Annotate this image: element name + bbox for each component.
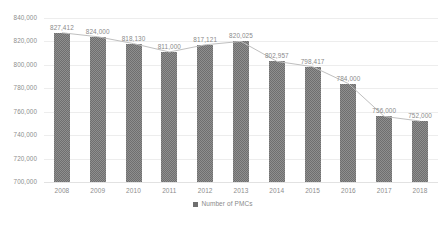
y-axis-tick-label: 800,000: [14, 62, 37, 68]
bar[interactable]: [126, 44, 142, 182]
bar-slot: [44, 18, 80, 182]
bar[interactable]: [412, 121, 428, 182]
chart-container: 840,000820,000800,000780,000760,000740,0…: [0, 0, 446, 228]
bar[interactable]: [340, 84, 356, 182]
x-axis: 2008200920102011201220132014201520162017…: [44, 184, 438, 198]
bar-slot: [295, 18, 331, 182]
x-axis-tick-label: 2012: [187, 184, 223, 198]
bar-slot: [151, 18, 187, 182]
bar[interactable]: [90, 37, 106, 182]
bar-slot: [116, 18, 152, 182]
bar-slot: [402, 18, 438, 182]
bar[interactable]: [305, 67, 321, 182]
y-axis-tick-label: 700,000: [14, 179, 37, 185]
y-axis-tick-label: 740,000: [14, 132, 37, 138]
bar-slot: [366, 18, 402, 182]
y-axis-tick-label: 780,000: [14, 85, 37, 91]
bar[interactable]: [161, 52, 177, 182]
x-axis-tick-label: 2008: [44, 184, 80, 198]
y-axis-tick-label: 840,000: [14, 15, 37, 21]
bar-slot: [259, 18, 295, 182]
x-axis-tick-label: 2010: [116, 184, 152, 198]
bar[interactable]: [376, 116, 392, 182]
x-axis-tick-label: 2017: [366, 184, 402, 198]
bars-layer: [44, 18, 438, 182]
x-axis-tick-label: 2011: [151, 184, 187, 198]
y-axis-tick-label: 720,000: [14, 155, 37, 161]
x-axis-tick-label: 2015: [295, 184, 331, 198]
chart-legend: Number of PMCs: [0, 201, 446, 208]
bar[interactable]: [54, 33, 70, 182]
bar-slot: [223, 18, 259, 182]
bar[interactable]: [197, 45, 213, 182]
y-axis-tick-label: 820,000: [14, 38, 37, 44]
bar[interactable]: [233, 41, 249, 182]
y-axis: 840,000820,000800,000780,000760,000740,0…: [0, 18, 40, 182]
gridline: [44, 182, 438, 183]
bar-slot: [331, 18, 367, 182]
y-axis-tick-label: 760,000: [14, 109, 37, 115]
legend-swatch-icon: [193, 202, 198, 207]
x-axis-tick-label: 2009: [80, 184, 116, 198]
x-axis-tick-label: 2013: [223, 184, 259, 198]
bar-slot: [187, 18, 223, 182]
x-axis-tick-label: 2014: [259, 184, 295, 198]
x-axis-tick-label: 2018: [402, 184, 438, 198]
legend-label: Number of PMCs: [201, 201, 252, 208]
bar[interactable]: [269, 61, 285, 182]
x-axis-tick-label: 2016: [331, 184, 367, 198]
plot-area: 827,412824,000818,130811,000817,121820,0…: [44, 18, 438, 182]
bar-slot: [80, 18, 116, 182]
